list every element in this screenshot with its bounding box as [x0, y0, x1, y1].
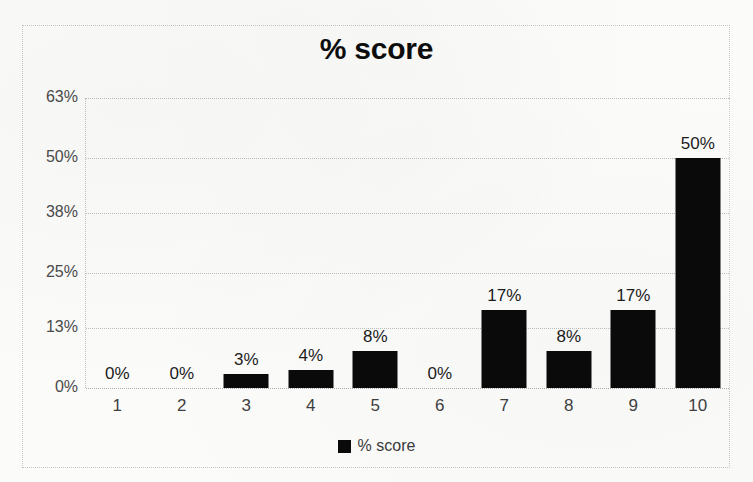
bar[interactable] — [546, 351, 591, 388]
bar-data-label: 17% — [487, 286, 521, 306]
bar-group: 17% — [472, 98, 537, 388]
x-axis-tick-label: 4 — [306, 396, 315, 416]
bars-layer: 0%0%3%4%8%0%17%8%17%50% — [85, 98, 730, 388]
bar[interactable] — [675, 158, 720, 388]
bar-group: 8% — [343, 98, 408, 388]
bar-group: 17% — [601, 98, 666, 388]
y-axis-tick-label: 25% — [20, 263, 78, 281]
bar-group: 3% — [214, 98, 279, 388]
x-axis-tick-label: 2 — [177, 396, 186, 416]
bar-group: 0% — [150, 98, 215, 388]
y-axis-tick-label: 0% — [20, 378, 78, 396]
bar[interactable] — [353, 351, 398, 388]
x-axis-tick-label: 8 — [564, 396, 573, 416]
bar-group: 0% — [408, 98, 473, 388]
bar-data-label: 8% — [556, 327, 581, 347]
y-axis-tick-label: 38% — [20, 203, 78, 221]
bar-data-label: 4% — [298, 346, 323, 366]
gridline-0% — [86, 388, 729, 389]
x-axis-tick-label: 3 — [242, 396, 251, 416]
x-axis-tick-label: 5 — [371, 396, 380, 416]
bar-data-label: 3% — [234, 350, 259, 370]
bar-data-label: 0% — [169, 364, 194, 384]
chart-legend: % score — [0, 437, 753, 455]
legend-label: % score — [358, 437, 416, 455]
chart-screenshot: % score 0%13%25%38%50%63% 0%0%3%4%8%0%17… — [0, 0, 753, 482]
bar[interactable] — [611, 310, 656, 388]
x-axis-tick-label: 9 — [629, 396, 638, 416]
bar[interactable] — [224, 374, 269, 388]
bar-data-label: 0% — [105, 364, 130, 384]
bar[interactable] — [288, 370, 333, 388]
legend-swatch-icon — [338, 440, 351, 453]
x-axis-tick-label: 6 — [435, 396, 444, 416]
x-axis: 12345678910 — [85, 396, 730, 430]
bar[interactable] — [482, 310, 527, 388]
bar-data-label: 8% — [363, 327, 388, 347]
bar-group: 4% — [279, 98, 344, 388]
y-axis-tick-label: 13% — [20, 318, 78, 336]
y-axis: 0%13%25%38%50%63% — [12, 98, 78, 388]
bar-data-label: 50% — [681, 134, 715, 154]
bar-group: 50% — [666, 98, 731, 388]
x-axis-tick-label: 10 — [688, 396, 707, 416]
bar-data-label: 0% — [427, 364, 452, 384]
y-axis-tick-label: 63% — [20, 88, 78, 106]
bar-data-label: 17% — [616, 286, 650, 306]
x-axis-tick-label: 7 — [500, 396, 509, 416]
chart-title: % score — [0, 32, 753, 66]
bar-group: 8% — [537, 98, 602, 388]
bar-group: 0% — [85, 98, 150, 388]
x-axis-tick-label: 1 — [113, 396, 122, 416]
y-axis-tick-label: 50% — [20, 148, 78, 166]
